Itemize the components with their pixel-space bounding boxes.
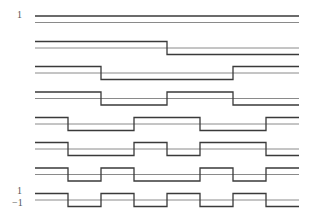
walsh-functions-diagram (0, 0, 314, 219)
bottom-minus-one-label: −1 (12, 198, 23, 208)
waveform-row-4 (35, 118, 299, 131)
top-amplitude-label: 1 (17, 10, 22, 20)
waveform-row-0 (35, 16, 299, 23)
waveform-rows (35, 16, 299, 207)
waveform-row-3 (35, 92, 299, 105)
waveform-row-7 (35, 194, 299, 207)
bottom-plus-one-label: 1 (17, 186, 22, 196)
waveform-row-2 (35, 67, 299, 80)
waveform-row-1 (35, 42, 299, 55)
waveform-row-6 (35, 168, 299, 181)
waveform-row-5 (35, 143, 299, 156)
